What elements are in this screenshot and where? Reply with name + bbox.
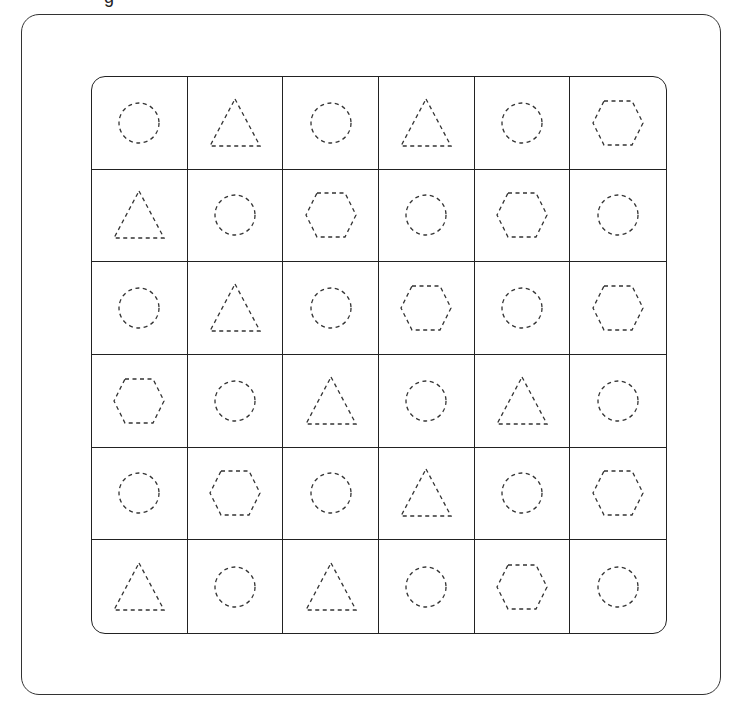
dashed-circle-icon xyxy=(394,183,458,247)
dashed-circle-icon xyxy=(586,555,650,619)
grid-cell xyxy=(188,262,284,355)
dashed-hexagon-icon xyxy=(203,461,267,525)
grid-cell xyxy=(475,540,571,633)
grid-cell xyxy=(570,540,666,633)
dashed-circle-icon xyxy=(299,276,363,340)
dashed-circle-icon xyxy=(490,461,554,525)
dashed-hexagon-icon xyxy=(586,276,650,340)
grid-cell xyxy=(92,262,188,355)
grid-cell xyxy=(570,77,666,170)
grid-cell xyxy=(92,540,188,633)
dashed-hexagon-icon xyxy=(107,369,171,433)
grid-cell xyxy=(92,77,188,170)
dashed-triangle-icon xyxy=(107,183,171,247)
grid-cell xyxy=(475,355,571,448)
dashed-circle-icon xyxy=(394,369,458,433)
dashed-hexagon-icon xyxy=(490,183,554,247)
dashed-circle-icon xyxy=(203,555,267,619)
dashed-triangle-icon xyxy=(203,91,267,155)
dashed-circle-icon xyxy=(299,91,363,155)
grid-cell xyxy=(92,355,188,448)
grid-cell xyxy=(283,262,379,355)
dashed-circle-icon xyxy=(107,461,171,525)
grid-cell xyxy=(188,448,284,541)
grid-cell xyxy=(570,262,666,355)
grid-cell xyxy=(283,77,379,170)
dashed-circle-icon xyxy=(107,91,171,155)
dashed-triangle-icon xyxy=(394,91,458,155)
grid-cell xyxy=(570,355,666,448)
dashed-triangle-icon xyxy=(299,555,363,619)
dashed-hexagon-icon xyxy=(490,555,554,619)
grid-cell xyxy=(188,540,284,633)
dashed-triangle-icon xyxy=(203,276,267,340)
dashed-hexagon-icon xyxy=(586,91,650,155)
grid-cell xyxy=(379,355,475,448)
grid-cell xyxy=(475,448,571,541)
grid-cell xyxy=(92,448,188,541)
dashed-hexagon-icon xyxy=(586,461,650,525)
dashed-triangle-icon xyxy=(107,555,171,619)
dashed-circle-icon xyxy=(490,276,554,340)
grid-cell xyxy=(188,355,284,448)
dashed-hexagon-icon xyxy=(299,183,363,247)
grid-cell xyxy=(188,170,284,263)
grid-cell xyxy=(283,448,379,541)
grid-cell xyxy=(570,170,666,263)
dashed-circle-icon xyxy=(299,461,363,525)
grid-cell xyxy=(379,262,475,355)
dashed-triangle-icon xyxy=(299,369,363,433)
dashed-circle-icon xyxy=(490,91,554,155)
grid-cell xyxy=(475,170,571,263)
grid-cell xyxy=(475,262,571,355)
grid-cell xyxy=(379,540,475,633)
grid-cell xyxy=(379,448,475,541)
grid-cell xyxy=(283,540,379,633)
dashed-circle-icon xyxy=(107,276,171,340)
dashed-circle-icon xyxy=(203,369,267,433)
grid-cell xyxy=(283,355,379,448)
dashed-triangle-icon xyxy=(394,461,458,525)
dashed-triangle-icon xyxy=(490,369,554,433)
grid-cell xyxy=(188,77,284,170)
dashed-circle-icon xyxy=(586,369,650,433)
grid-cell xyxy=(92,170,188,263)
grid-cell xyxy=(379,77,475,170)
dashed-circle-icon xyxy=(394,555,458,619)
dashed-circle-icon xyxy=(586,183,650,247)
grid-cell xyxy=(475,77,571,170)
grid-cell xyxy=(379,170,475,263)
cropped-title-glyph: g xyxy=(104,0,112,4)
grid-cell xyxy=(283,170,379,263)
dashed-circle-icon xyxy=(203,183,267,247)
dashed-hexagon-icon xyxy=(394,276,458,340)
shape-tracing-grid xyxy=(91,76,667,634)
grid-cell xyxy=(570,448,666,541)
